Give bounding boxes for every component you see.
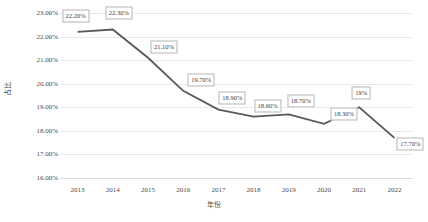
data-point-label: 19%: [352, 87, 371, 100]
data-point-label: 18.30%: [330, 107, 357, 120]
y-axis-tick: 16.00%: [14, 174, 58, 182]
x-axis-tick: 2018: [247, 186, 261, 194]
data-point-label: 17.70%: [397, 137, 424, 150]
data-point-label: 21.10%: [150, 40, 177, 53]
y-axis-tick: 22.00%: [14, 33, 58, 41]
y-axis-tick: 20.00%: [14, 80, 58, 88]
gridline: [60, 178, 412, 179]
data-point-label: 18.60%: [254, 99, 281, 112]
x-axis-title: 年份: [0, 199, 428, 209]
y-axis-tick-labels: 23.00%22.00%21.00%20.00%19.00%18.00%17.0…: [14, 0, 58, 222]
x-axis-tick: 2015: [141, 186, 155, 194]
x-axis-tick: 2021: [352, 186, 366, 194]
x-axis-tick: 2022: [387, 186, 401, 194]
x-axis-tick: 2020: [317, 186, 331, 194]
data-point-label: 22.20%: [62, 9, 89, 22]
line-chart: 占比 23.00%22.00%21.00%20.00%19.00%18.00%1…: [0, 0, 428, 222]
data-point-label: 18.70%: [287, 95, 314, 108]
data-point-label: 18.90%: [219, 91, 246, 104]
x-axis-tick: 2013: [71, 186, 85, 194]
x-axis-tick: 2017: [211, 186, 225, 194]
y-axis-tick: 21.00%: [14, 56, 58, 64]
y-axis-tick: 18.00%: [14, 127, 58, 135]
x-axis-tick: 2019: [282, 186, 296, 194]
y-axis-tick: 17.00%: [14, 150, 58, 158]
x-axis-tick: 2014: [106, 186, 120, 194]
x-axis-tick: 2016: [176, 186, 190, 194]
figure-caption: [0, 214, 428, 222]
y-axis-title: 占比: [2, 82, 12, 96]
plot-area: 22.20%22.30%21.10%19.70%18.90%18.60%18.7…: [60, 13, 412, 178]
y-axis-tick: 23.00%: [14, 9, 58, 17]
data-point-label: 19.70%: [188, 73, 215, 86]
data-point-label: 22.30%: [105, 6, 132, 19]
y-axis-tick: 19.00%: [14, 103, 58, 111]
